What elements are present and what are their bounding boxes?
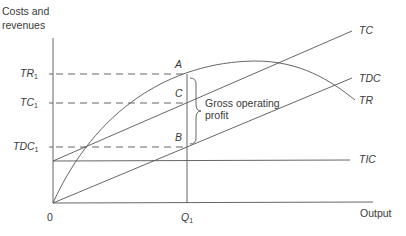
origin-label: 0	[47, 211, 53, 223]
tc1-label: TC1	[20, 96, 38, 112]
q1-label: Q1	[181, 211, 193, 227]
tdc1-label: TDC1	[13, 140, 39, 156]
brace-label-line2: profit	[205, 109, 280, 121]
y-axis-title-line2: revenues	[2, 18, 49, 32]
point-b-label: B	[175, 131, 182, 143]
tdc-line	[53, 78, 352, 203]
tc-line	[53, 31, 352, 161]
tc-curve-label: TC	[359, 24, 373, 36]
tr-curve	[53, 61, 355, 203]
diagram-canvas	[0, 0, 406, 236]
x-axis	[53, 202, 373, 203]
tr1-label: TR1	[20, 67, 38, 83]
gross-operating-profit-label: Gross operating profit	[205, 97, 280, 121]
x-axis-label: Output	[360, 207, 392, 219]
tic-curve-label: TIC	[359, 153, 376, 165]
profit-brace	[190, 78, 201, 144]
tic-line	[53, 160, 350, 161]
tdc-curve-label: TDC	[359, 72, 381, 84]
y-axis-title: Costs and revenues	[2, 4, 49, 32]
y-axis-title-line1: Costs and	[2, 4, 49, 18]
point-c-label: C	[175, 87, 183, 99]
brace-label-line1: Gross operating	[205, 97, 280, 109]
tr-curve-label: TR	[359, 94, 373, 106]
point-a-label: A	[175, 58, 182, 70]
